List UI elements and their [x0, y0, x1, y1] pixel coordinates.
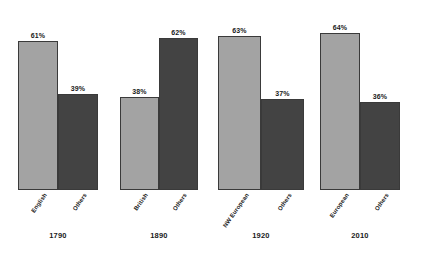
bar-slot: 37%	[261, 0, 304, 190]
bar-2010-others[interactable]	[360, 102, 400, 190]
bar-value-label: 39%	[58, 85, 98, 92]
bar-chart: 61%39%38%62%63%37%64%36% EnglishOthersBr…	[0, 0, 422, 256]
bar-value-label: 61%	[18, 32, 58, 39]
bar-slot: 62%	[159, 0, 198, 190]
bar-2010-european[interactable]	[320, 33, 360, 190]
bar-1920-others[interactable]	[261, 99, 304, 190]
year-label-1890: 1890	[120, 232, 198, 240]
bars-row: 61%39%	[18, 0, 98, 190]
bar-group-2010: 64%36%	[320, 0, 400, 190]
bar-value-label: 62%	[159, 29, 198, 36]
category-label-european: European	[328, 192, 349, 219]
category-label-row: EnglishOthersBritishOthersNW EuropeanOth…	[0, 192, 422, 226]
bar-value-label: 37%	[261, 90, 304, 97]
year-label-1920: 1920	[218, 232, 304, 240]
bars-row: 64%36%	[320, 0, 400, 190]
category-label-others: Others	[373, 192, 389, 212]
bar-1920-nw-european[interactable]	[218, 36, 261, 190]
bar-group-1790: 61%39%	[18, 0, 98, 190]
bar-1790-others[interactable]	[58, 94, 98, 190]
year-label-2010: 2010	[320, 232, 400, 240]
plot-area: 61%39%38%62%63%37%64%36%	[0, 0, 422, 196]
bar-slot: 36%	[360, 0, 400, 190]
category-label-others: Others	[276, 192, 292, 212]
bar-value-label: 63%	[218, 27, 261, 34]
bar-slot: 38%	[120, 0, 159, 190]
bars-row: 63%37%	[218, 0, 304, 190]
category-label-others: Others	[172, 192, 188, 212]
bar-group-1890: 38%62%	[120, 0, 198, 190]
category-label-english: English	[30, 192, 48, 214]
bar-value-label: 36%	[360, 93, 400, 100]
bar-slot: 63%	[218, 0, 261, 190]
bar-group-1920: 63%37%	[218, 0, 304, 190]
bar-value-label: 64%	[320, 24, 360, 31]
category-label-nw-european: NW European	[221, 192, 249, 229]
category-label-others: Others	[71, 192, 87, 212]
bar-slot: 61%	[18, 0, 58, 190]
bar-1890-british[interactable]	[120, 97, 159, 190]
bar-slot: 39%	[58, 0, 98, 190]
bar-value-label: 38%	[120, 88, 159, 95]
category-label-british: British	[133, 192, 149, 212]
year-label-1790: 1790	[18, 232, 98, 240]
bars-row: 38%62%	[120, 0, 198, 190]
bar-slot: 64%	[320, 0, 360, 190]
year-label-row: 1790189019202010	[0, 232, 422, 248]
bar-1790-english[interactable]	[18, 41, 58, 190]
bar-1890-others[interactable]	[159, 38, 198, 190]
